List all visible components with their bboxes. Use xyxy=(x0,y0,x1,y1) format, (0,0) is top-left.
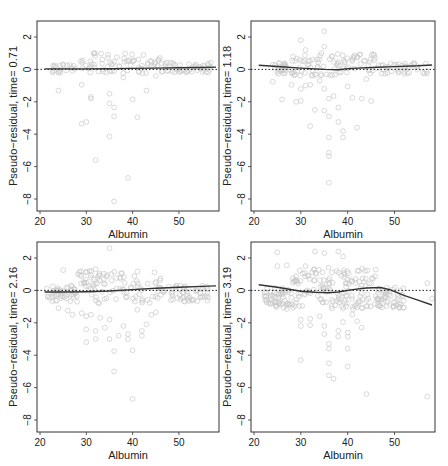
data-point xyxy=(289,82,294,87)
data-point xyxy=(79,121,84,126)
x-tick-label: 30 xyxy=(295,437,307,448)
data-point xyxy=(99,51,104,56)
data-point xyxy=(270,79,275,84)
data-point xyxy=(350,294,355,299)
data-point xyxy=(126,337,131,342)
y-tick-label: −6 xyxy=(22,381,33,393)
data-point xyxy=(322,44,327,49)
data-point xyxy=(327,154,332,159)
data-point xyxy=(298,86,303,91)
data-point xyxy=(313,249,318,254)
data-point xyxy=(303,83,308,88)
data-point xyxy=(112,369,117,374)
data-point xyxy=(327,361,332,366)
data-point xyxy=(122,56,127,61)
data-point xyxy=(135,307,140,312)
x-tick-label: 40 xyxy=(127,437,139,448)
data-point xyxy=(280,97,285,102)
data-point xyxy=(114,297,119,302)
data-point xyxy=(93,329,98,334)
data-point xyxy=(84,314,89,319)
data-point xyxy=(322,324,327,329)
data-point xyxy=(112,105,117,110)
data-point xyxy=(297,268,302,273)
y-tick-label: −2 xyxy=(22,96,33,108)
data-point xyxy=(345,364,350,369)
data-point xyxy=(298,73,303,78)
data-point xyxy=(153,74,158,79)
data-point xyxy=(327,346,332,351)
data-point xyxy=(372,302,377,307)
data-point xyxy=(106,56,111,61)
data-point xyxy=(336,294,341,299)
data-point xyxy=(107,317,112,322)
data-point xyxy=(56,306,61,311)
data-point xyxy=(130,52,135,57)
data-point xyxy=(345,346,350,351)
data-point xyxy=(141,53,146,58)
y-tick-label: −8 xyxy=(236,414,247,426)
x-tick-label: 40 xyxy=(342,216,354,227)
data-point xyxy=(327,373,332,378)
data-point xyxy=(297,294,302,299)
data-point xyxy=(298,324,303,329)
y-tick-label: −8 xyxy=(22,414,33,426)
data-point xyxy=(284,263,289,268)
x-axis-label: Albumin xyxy=(323,449,363,461)
data-point xyxy=(322,251,327,256)
x-tick-label: 20 xyxy=(248,437,260,448)
data-point xyxy=(112,199,117,204)
data-point xyxy=(331,94,336,99)
plot-area xyxy=(37,246,219,401)
data-point xyxy=(122,281,127,286)
data-point xyxy=(368,71,373,76)
data-point xyxy=(153,310,158,315)
data-point xyxy=(61,268,66,273)
x-tick-label: 50 xyxy=(389,437,401,448)
y-tick-label: −6 xyxy=(236,381,247,393)
x-tick-label: 50 xyxy=(389,216,401,227)
data-point xyxy=(298,99,303,104)
data-point xyxy=(102,325,107,330)
data-point xyxy=(336,105,341,110)
data-point xyxy=(401,298,406,303)
data-point xyxy=(107,246,112,251)
data-point xyxy=(341,320,346,325)
data-point xyxy=(189,69,194,74)
y-tick-label: −6 xyxy=(236,160,247,172)
data-point xyxy=(276,71,281,76)
data-point xyxy=(294,99,299,104)
data-point xyxy=(89,292,94,297)
data-point xyxy=(107,101,112,106)
x-tick-label: 20 xyxy=(34,216,46,227)
data-point xyxy=(327,180,332,185)
data-point xyxy=(84,340,89,345)
data-point xyxy=(350,312,355,317)
panel-time-1.18: 20−2−4−6−820304050AlbuminPseudo−residual… xyxy=(221,21,435,240)
data-point xyxy=(364,77,369,82)
data-point xyxy=(350,95,355,100)
data-point xyxy=(322,108,327,113)
data-point xyxy=(322,86,327,91)
data-point xyxy=(355,125,360,130)
data-point xyxy=(320,270,325,275)
data-point xyxy=(159,61,164,66)
data-point xyxy=(322,29,327,34)
data-point xyxy=(327,342,332,347)
x-tick-label: 50 xyxy=(173,437,185,448)
data-point xyxy=(327,114,332,119)
data-point xyxy=(336,334,341,339)
x-axis-label: Albumin xyxy=(108,228,148,240)
y-tick-label: −2 xyxy=(236,317,247,329)
data-point xyxy=(140,329,145,334)
data-point xyxy=(107,134,112,139)
data-point xyxy=(84,120,89,125)
data-point xyxy=(205,298,210,303)
data-point xyxy=(359,325,364,330)
data-point xyxy=(341,135,346,140)
data-point xyxy=(116,333,121,338)
y-axis-label: Pseudo−residual, time= 0.71 xyxy=(7,46,19,186)
data-point xyxy=(330,270,335,275)
data-point xyxy=(93,158,98,163)
data-point xyxy=(336,329,341,334)
